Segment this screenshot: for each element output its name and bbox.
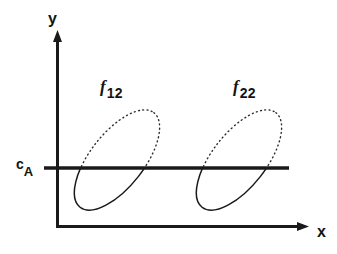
curve-f12-lower-solid (59, 96, 175, 224)
x-axis-arrow-icon (297, 222, 309, 231)
curve-label-f12-base: f (100, 77, 106, 96)
figure-canvas: y x cA f12 f22 (0, 0, 337, 254)
level-line-label: cA (16, 156, 34, 172)
y-axis (53, 30, 62, 226)
curve-label-f22: f22 (233, 78, 255, 95)
curve-label-f12-subscript: 12 (107, 85, 123, 101)
level-line-label-subscript: A (24, 164, 34, 179)
y-axis-arrow-icon (53, 30, 62, 42)
x-axis-label: x (317, 224, 326, 240)
curve-f22-upper-dotted (181, 96, 297, 224)
y-axis-label: y (48, 11, 57, 27)
curve-f22-lower-solid (181, 96, 297, 224)
curve-label-f22-base: f (233, 77, 239, 96)
curve-label-f22-subscript: 22 (240, 85, 256, 101)
curve-f12-upper-dotted (59, 96, 175, 224)
curve-label-f12: f12 (100, 78, 122, 95)
diagram-svg (0, 0, 337, 254)
level-line-label-base: c (16, 156, 24, 172)
x-axis (56, 222, 309, 231)
